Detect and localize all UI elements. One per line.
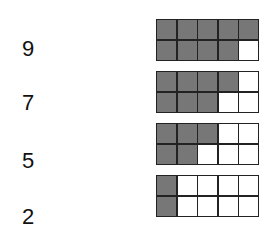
empty-cell: [219, 176, 238, 195]
filled-cell: [219, 72, 238, 91]
filled-cell: [157, 176, 176, 195]
filled-cell: [178, 72, 197, 91]
empty-cell: [239, 176, 258, 195]
empty-cell: [239, 197, 258, 216]
filled-cell: [198, 20, 217, 39]
filled-cell: [157, 197, 176, 216]
filled-cell: [198, 41, 217, 60]
number-label-9: 9: [22, 38, 34, 60]
empty-cell: [239, 124, 258, 143]
empty-cell: [198, 176, 217, 195]
empty-cell: [239, 72, 258, 91]
filled-cell: [219, 20, 238, 39]
empty-cell: [178, 176, 197, 195]
empty-cell: [219, 124, 238, 143]
ten-frame-9: [156, 19, 259, 61]
empty-cell: [239, 145, 258, 164]
empty-cell: [198, 197, 217, 216]
ten-frame-2: [156, 175, 259, 217]
filled-cell: [178, 93, 197, 112]
filled-cell: [178, 124, 197, 143]
filled-cell: [219, 41, 238, 60]
empty-cell: [178, 197, 197, 216]
empty-cell: [239, 41, 258, 60]
filled-cell: [157, 93, 176, 112]
number-label-5: 5: [22, 150, 34, 172]
filled-cell: [239, 20, 258, 39]
filled-cell: [178, 20, 197, 39]
empty-cell: [219, 93, 238, 112]
filled-cell: [157, 72, 176, 91]
number-label-7: 7: [22, 92, 34, 114]
filled-cell: [157, 41, 176, 60]
filled-cell: [178, 145, 197, 164]
filled-cell: [157, 145, 176, 164]
empty-cell: [219, 197, 238, 216]
number-label-2: 2: [22, 206, 34, 228]
ten-frame-7: [156, 71, 259, 113]
ten-frame-5: [156, 123, 259, 165]
empty-cell: [239, 93, 258, 112]
filled-cell: [157, 20, 176, 39]
filled-cell: [198, 124, 217, 143]
filled-cell: [198, 72, 217, 91]
filled-cell: [178, 41, 197, 60]
filled-cell: [198, 93, 217, 112]
filled-cell: [157, 124, 176, 143]
empty-cell: [219, 145, 238, 164]
empty-cell: [198, 145, 217, 164]
